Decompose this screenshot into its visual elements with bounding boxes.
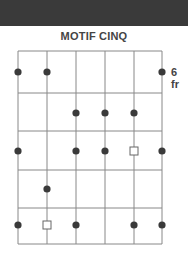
finger-dot-marker (72, 221, 79, 228)
finger-dot-marker (101, 147, 108, 154)
finger-dot-marker (101, 109, 108, 116)
finger-dot-marker (158, 147, 165, 154)
finger-dot-marker (72, 109, 79, 116)
fretboard-grid (0, 0, 188, 268)
finger-dot-marker (14, 147, 21, 154)
finger-dot-marker (14, 68, 21, 75)
finger-dot-marker (72, 147, 79, 154)
root-square-marker (130, 147, 138, 155)
finger-dot-marker (158, 68, 165, 75)
finger-dot-marker (158, 221, 165, 228)
finger-dot-marker (130, 109, 137, 116)
finger-dot-marker (43, 68, 50, 75)
finger-dot-marker (43, 185, 50, 192)
finger-dot-marker (130, 221, 137, 228)
fret-position-label: 6 fr (171, 66, 188, 90)
finger-dot-marker (14, 221, 21, 228)
root-square-marker (43, 221, 51, 229)
